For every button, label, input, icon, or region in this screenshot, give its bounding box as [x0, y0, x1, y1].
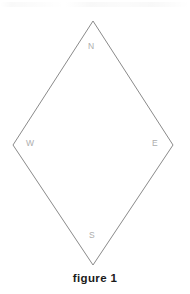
diamond-outline-shape: [13, 21, 173, 265]
vertex-label-south: S: [89, 231, 95, 240]
figure-container: N W E S figure 1: [0, 0, 190, 294]
vertex-label-east: E: [152, 139, 158, 148]
vertex-label-west: W: [26, 139, 34, 148]
figure-caption: figure 1: [0, 272, 190, 284]
vertex-label-north: N: [88, 42, 94, 51]
